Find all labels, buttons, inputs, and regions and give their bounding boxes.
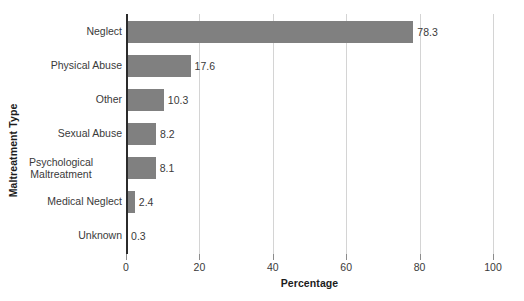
- gridline: [199, 14, 200, 254]
- category-label: Unknown: [4, 230, 122, 242]
- tick-mark: [346, 254, 347, 260]
- category-axis-labels: NeglectPhysical AbuseOtherSexual AbusePs…: [0, 14, 122, 254]
- tick-mark: [199, 254, 200, 260]
- bar-chart: Maltreatment Type NeglectPhysical AbuseO…: [0, 0, 524, 301]
- category-label: Other: [4, 94, 122, 106]
- tick-label: 40: [253, 261, 293, 273]
- gridline: [273, 14, 274, 254]
- tick-label: 80: [400, 261, 440, 273]
- bar: [126, 157, 156, 179]
- gridline: [420, 14, 421, 254]
- bar: [126, 55, 191, 77]
- category-label: Neglect: [4, 26, 122, 38]
- tick-mark: [420, 254, 421, 260]
- tick-mark: [126, 254, 127, 260]
- category-label: Sexual Abuse: [4, 128, 122, 140]
- tick-label: 100: [473, 261, 513, 273]
- bar: [126, 123, 156, 145]
- bar-value-label: 10.3: [168, 89, 188, 111]
- tick-mark: [273, 254, 274, 260]
- category-label: Physical Abuse: [4, 60, 122, 72]
- category-label: Medical Neglect: [4, 196, 122, 208]
- gridline: [493, 14, 494, 254]
- tick-label: 0: [106, 261, 146, 273]
- gridline: [346, 14, 347, 254]
- tick-label: 60: [326, 261, 366, 273]
- category-label: PsychologicalMaltreatment: [4, 157, 118, 180]
- bar-value-label: 17.6: [195, 55, 215, 77]
- bar: [126, 89, 164, 111]
- bar-value-label: 78.3: [417, 21, 437, 43]
- value-axis-line: [126, 14, 128, 254]
- x-axis-title: Percentage: [126, 277, 493, 289]
- tick-mark: [493, 254, 494, 260]
- bar-value-label: 8.1: [160, 157, 175, 179]
- bar-value-label: 0.3: [131, 225, 146, 247]
- bar-value-label: 8.2: [160, 123, 175, 145]
- bar: [126, 21, 413, 43]
- plot-area: 78.317.610.38.28.12.40.3: [126, 14, 493, 254]
- tick-label: 20: [179, 261, 219, 273]
- bar-value-label: 2.4: [139, 191, 154, 213]
